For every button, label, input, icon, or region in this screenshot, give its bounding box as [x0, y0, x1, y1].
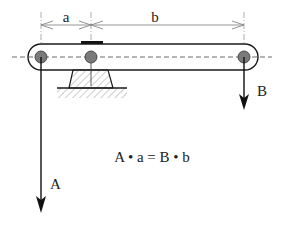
equilibrium-equation: A • a = B • b	[114, 149, 190, 165]
force-a-arrow	[36, 57, 46, 213]
dimension-extension-lines	[41, 12, 244, 45]
dimension-b	[91, 21, 244, 29]
force-b-label: B	[257, 83, 267, 99]
force-b-arrow	[239, 57, 249, 110]
lever-diagram: a b A B A • a = B • b	[0, 0, 283, 225]
dimension-a-label: a	[63, 9, 70, 25]
dimension-b-label: b	[151, 9, 159, 25]
pivot-fulcrum	[85, 51, 97, 63]
force-a-label: A	[50, 176, 61, 192]
